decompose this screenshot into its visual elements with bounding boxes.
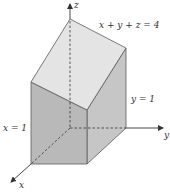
right-plane-label: y = 1 (130, 94, 155, 104)
front-plane-label: x = 1 (3, 123, 27, 133)
solid-diagram: z y x x + y + z = 4 y = 1 x = 1 (0, 0, 170, 192)
z-axis-label: z (73, 0, 79, 10)
y-axis-label: y (163, 130, 170, 140)
top-plane-label: x + y + z = 4 (99, 20, 160, 30)
x-axis-label: x (19, 180, 24, 190)
